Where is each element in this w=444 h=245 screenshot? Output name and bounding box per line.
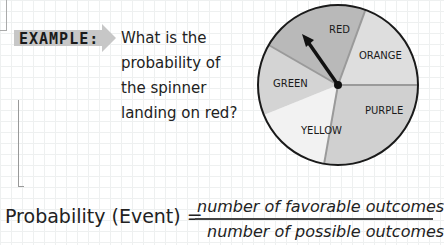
segment-label-yellow: YELLOW (300, 125, 342, 136)
question-line: the spinner (121, 76, 261, 101)
probability-formula: Probability (Event) = number of favorabl… (5, 196, 433, 244)
formula-lhs: Probability (Event) = (5, 205, 203, 227)
spinner-hub (334, 81, 342, 89)
fraction-bar (195, 218, 433, 220)
decorative-bracket-left (18, 100, 24, 187)
example-question: What is the probability of the spinner l… (121, 26, 261, 126)
question-line: landing on red? (121, 101, 261, 126)
question-line: What is the (121, 26, 261, 51)
question-line: probability of (121, 51, 261, 76)
segment-label-green: GREEN (273, 78, 308, 89)
formula-numerator: number of favorable outcomes (197, 197, 444, 216)
segment-label-red: RED (329, 24, 350, 35)
segment-label-purple: PURPLE (365, 105, 403, 116)
decorative-bracket-top (0, 0, 7, 31)
spinner-diagram: RED ORANGE PURPLE YELLOW GREEN (254, 0, 433, 172)
segment-label-orange: ORANGE (359, 50, 402, 61)
formula-denominator: number of possible outcomes (207, 222, 444, 241)
example-label: EXAMPLE: (19, 30, 99, 48)
